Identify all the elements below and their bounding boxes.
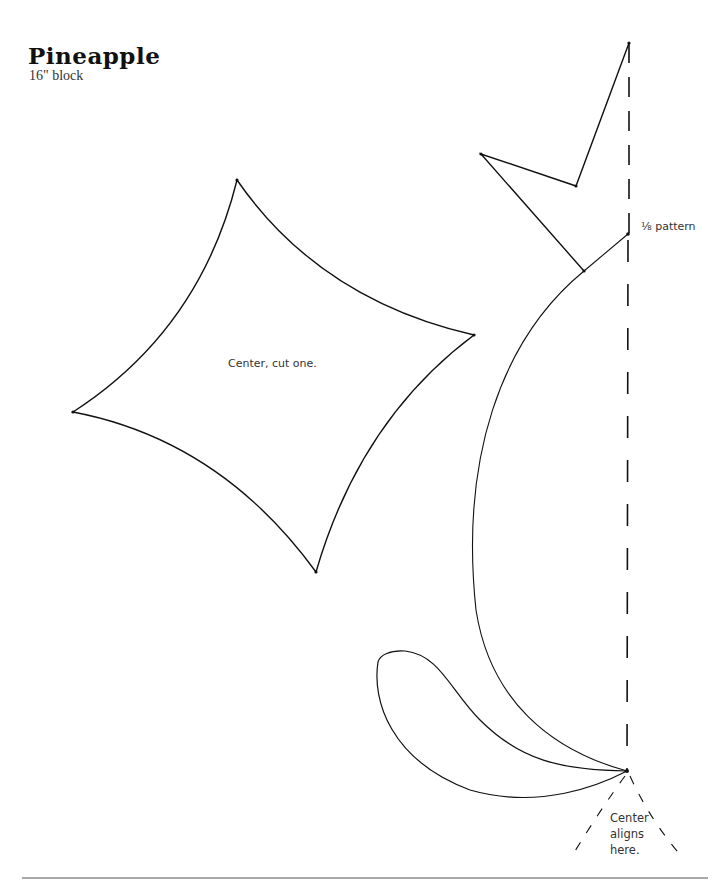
- align-line-1: Center: [610, 810, 649, 826]
- center-aligns-label: Center aligns here.: [610, 810, 649, 858]
- crown-leaf-shape: [481, 43, 629, 271]
- pattern-fraction-label: ⅛ pattern: [641, 220, 696, 233]
- center-piece-label: Center, cut one.: [228, 357, 317, 370]
- teardrop-shape: [377, 651, 627, 798]
- crescent-shape: [473, 234, 628, 771]
- center-diamond-shape: [73, 180, 474, 572]
- pattern-drawing: [0, 0, 728, 887]
- align-line-2: aligns: [610, 826, 649, 842]
- align-line-3: here.: [610, 842, 649, 858]
- center-fold-line-lower: [627, 240, 628, 771]
